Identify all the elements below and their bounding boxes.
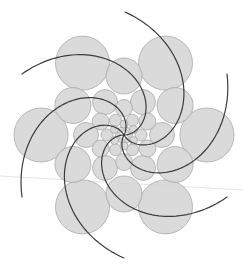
ring-0-circle (139, 180, 193, 234)
ring-3-circle (139, 140, 156, 157)
ring-1-circle (55, 147, 91, 183)
ring-1-circle (106, 58, 142, 94)
ring-0-circle (139, 36, 193, 90)
ring-2-circle (131, 155, 156, 180)
ring-5-circle (120, 120, 128, 128)
ring-3-circle (139, 113, 156, 130)
ring-5-circle (120, 142, 128, 150)
ring-1-circle (106, 176, 142, 212)
ring-3-circle (92, 140, 109, 157)
ring-2-circle (93, 90, 118, 115)
ring-1-circle (157, 88, 193, 124)
ring-0-circle (56, 36, 110, 90)
spiral-circle-diagram (0, 0, 243, 271)
ring-2-circle (93, 155, 118, 180)
